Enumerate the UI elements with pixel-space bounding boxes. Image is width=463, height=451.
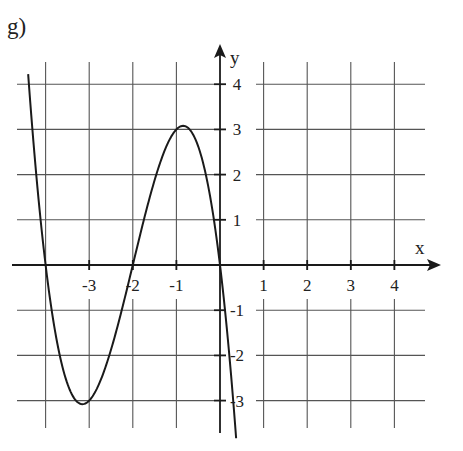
y-axis-label: y: [230, 47, 240, 68]
grid-lines: [17, 62, 425, 428]
axes: x y: [12, 44, 441, 433]
function-graph: x y -3-2-112344321-1-2-3: [0, 0, 463, 451]
y-tick-label: 2: [233, 166, 242, 185]
x-axis-label: x: [415, 237, 425, 258]
x-tick-label: -3: [82, 276, 96, 295]
y-tick-label: -2: [230, 346, 244, 365]
function-curve: [28, 74, 236, 438]
x-tick-label: -1: [169, 276, 183, 295]
x-tick-label: 4: [390, 276, 399, 295]
x-tick-label: 3: [347, 276, 356, 295]
y-tick-label: 3: [233, 120, 242, 139]
tick-labels: -3-2-112344321-1-2-3: [82, 75, 399, 410]
y-tick-label: 4: [233, 75, 242, 94]
x-tick-label: 1: [259, 276, 268, 295]
y-tick-label: -1: [230, 301, 244, 320]
y-tick-label: 1: [233, 211, 242, 230]
x-tick-label: 2: [303, 276, 312, 295]
